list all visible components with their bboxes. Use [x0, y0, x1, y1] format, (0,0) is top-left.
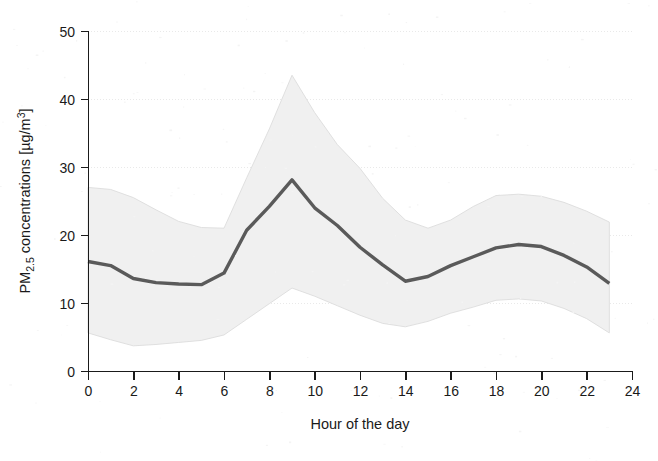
scan-speck — [464, 118, 467, 119]
scan-speck — [589, 458, 590, 459]
scan-speck — [111, 284, 113, 285]
scan-speck — [556, 399, 558, 400]
scan-speck — [285, 40, 287, 42]
scan-speck — [235, 255, 237, 256]
scan-speck — [269, 140, 272, 141]
scan-speck — [519, 431, 522, 433]
scan-speck — [417, 204, 418, 206]
x-tick-label-24: 24 — [625, 383, 641, 399]
scan-speck — [406, 22, 407, 23]
scan-speck — [484, 367, 486, 368]
scan-speck — [647, 322, 648, 324]
x-tick-label-2: 2 — [130, 383, 138, 399]
scan-speck — [203, 89, 206, 90]
scan-speck — [441, 94, 443, 95]
x-tick-label-8: 8 — [266, 383, 274, 399]
y-tick-label-40: 40 — [59, 92, 75, 108]
scan-speck — [152, 250, 153, 251]
scan-speck — [572, 312, 574, 313]
scan-speck — [293, 135, 294, 136]
y-axis-title-prefix: PM — [17, 272, 33, 294]
scan-speck — [403, 64, 404, 65]
scan-speck — [16, 45, 18, 46]
scan-speck — [523, 392, 525, 393]
scan-speck — [448, 182, 450, 183]
scan-speck — [238, 45, 240, 47]
scan-speck — [462, 302, 464, 303]
x-tick-label-10: 10 — [307, 383, 323, 399]
scan-speck — [386, 282, 388, 284]
scan-speck — [0, 186, 2, 187]
x-tick-label-20: 20 — [534, 383, 550, 399]
scan-speck — [578, 390, 580, 391]
scan-speck — [655, 169, 657, 170]
scan-speck — [346, 280, 349, 281]
scan-speck — [177, 188, 179, 189]
scan-speck — [496, 134, 499, 136]
scan-speck — [630, 159, 631, 160]
scan-speck — [171, 192, 172, 193]
y-tick-label-0: 0 — [67, 364, 75, 380]
scan-speck — [649, 5, 650, 7]
scan-speck — [574, 281, 575, 283]
scan-speck — [99, 402, 101, 403]
x-tick-label-12: 12 — [353, 383, 369, 399]
scan-speck — [415, 146, 416, 147]
scan-speck — [395, 235, 396, 236]
scan-speck — [100, 452, 101, 453]
figure-container: 024681012141618202224 01020304050 Hour o… — [0, 0, 658, 461]
scan-speck — [66, 325, 68, 326]
scan-speck — [409, 206, 411, 208]
scan-speck — [116, 22, 118, 23]
scan-speck — [281, 83, 283, 84]
scan-speck — [85, 173, 86, 174]
x-tick-label-0: 0 — [85, 383, 93, 399]
scan-speck — [455, 111, 456, 112]
pm25-diurnal-chart: 024681012141618202224 01020304050 Hour o… — [0, 0, 658, 461]
scan-speck — [194, 257, 195, 258]
scan-speck — [28, 68, 29, 69]
scan-speck — [35, 403, 37, 404]
scan-speck — [499, 354, 501, 355]
scan-speck — [111, 261, 113, 262]
scan-speck — [137, 92, 139, 93]
scan-speck — [292, 191, 294, 192]
scan-speck — [281, 412, 282, 413]
scan-speck — [551, 358, 553, 359]
scan-speck — [344, 32, 346, 33]
scan-speck — [2, 122, 4, 123]
scan-speck — [408, 136, 411, 137]
y-tick-label-10: 10 — [59, 296, 75, 312]
scan-speck — [276, 390, 277, 391]
x-tick-label-22: 22 — [579, 383, 595, 399]
scan-speck — [488, 259, 491, 260]
scan-speck — [159, 37, 162, 38]
scan-speck — [383, 444, 385, 445]
scan-speck — [21, 105, 22, 107]
scan-speck — [265, 167, 266, 168]
scan-speck — [312, 271, 314, 272]
scan-speck — [183, 106, 184, 107]
scan-speck — [289, 442, 291, 444]
scan-speck — [503, 338, 505, 339]
x-tick-label-6: 6 — [221, 383, 229, 399]
scan-speck — [604, 380, 606, 381]
scan-speck — [64, 77, 66, 79]
scan-speck — [494, 372, 496, 374]
scan-speck — [653, 319, 654, 321]
scan-speck — [179, 137, 180, 139]
scan-speck — [307, 357, 308, 358]
x-tick-label-16: 16 — [443, 383, 459, 399]
scan-speck — [243, 88, 244, 89]
scan-speck — [436, 17, 439, 19]
scan-speck — [315, 146, 316, 147]
y-tick-label-20: 20 — [59, 228, 75, 244]
scan-speck — [266, 445, 268, 446]
scan-speck — [390, 397, 392, 399]
scan-speck — [124, 102, 126, 103]
scan-speck — [407, 300, 408, 301]
scan-speck — [628, 3, 630, 4]
scan-speck — [515, 356, 517, 358]
scan-speck — [265, 73, 266, 74]
scan-speck — [376, 420, 379, 421]
